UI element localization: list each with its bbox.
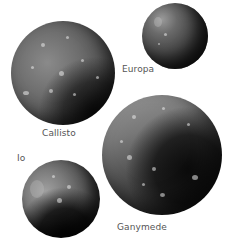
moon-europa — [142, 3, 208, 69]
label-io: Io — [17, 153, 25, 163]
label-ganymede: Ganymede — [117, 222, 167, 232]
moon-callisto — [11, 21, 115, 125]
moon-ganymede — [102, 95, 222, 215]
label-europa: Europa — [122, 64, 154, 74]
label-callisto: Callisto — [42, 128, 76, 138]
moon-io — [22, 160, 100, 238]
